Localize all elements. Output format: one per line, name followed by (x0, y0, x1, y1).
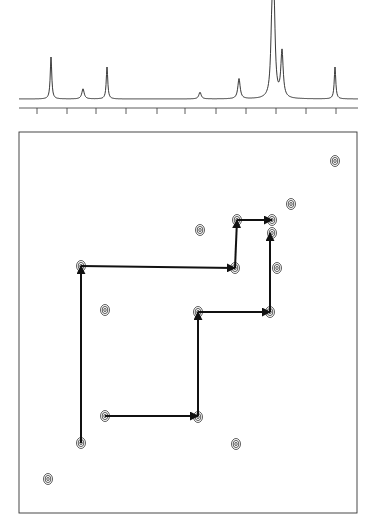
ppm-axis-ticks (37, 108, 336, 114)
plot-frame (19, 132, 357, 513)
cross-peak (44, 474, 53, 485)
cross-peak (287, 199, 296, 210)
cross-peak (196, 225, 205, 236)
connectivity-arrow (235, 220, 237, 268)
spectrum-trace (19, 0, 358, 99)
cross-peaks (44, 156, 340, 485)
nmr-figure (0, 0, 376, 529)
cross-peak (331, 156, 340, 167)
cross-peak (101, 305, 110, 316)
cross-peak (232, 439, 241, 450)
connectivity-arrow (81, 266, 235, 268)
projection-spectrum (19, 0, 358, 114)
connectivity-arrows (81, 220, 272, 443)
cross-peak (273, 263, 282, 274)
cross-peak (268, 228, 277, 239)
